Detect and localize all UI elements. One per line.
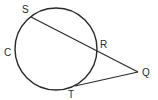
circle-c [15, 8, 97, 90]
secant-segment-qs [31, 17, 138, 72]
label-s: S [22, 4, 29, 15]
label-r: R [100, 39, 107, 50]
label-c: C [4, 47, 11, 58]
label-q: Q [142, 67, 150, 78]
geometry-diagram: S R Q T C [0, 0, 158, 100]
label-t: T [68, 89, 74, 100]
